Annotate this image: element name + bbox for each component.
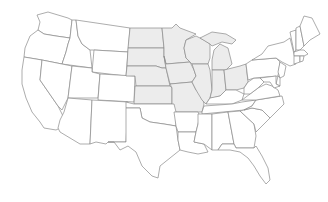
state-connecticut xyxy=(294,56,300,64)
state-arkansas xyxy=(174,112,200,132)
state-massachusetts xyxy=(294,50,308,56)
state-colorado xyxy=(98,74,135,102)
state-south-dakota xyxy=(127,48,166,68)
state-florida xyxy=(218,144,270,184)
state-new-mexico xyxy=(90,100,128,144)
state-maine xyxy=(300,16,320,46)
state-north-dakota xyxy=(128,28,164,48)
state-kansas xyxy=(134,86,172,104)
state-rhode-island xyxy=(300,56,304,62)
state-new-jersey xyxy=(278,62,286,78)
us-map xyxy=(0,0,328,202)
state-wyoming xyxy=(92,50,128,76)
